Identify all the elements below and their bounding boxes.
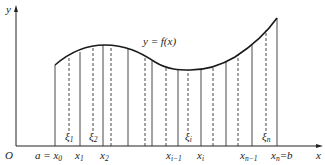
label-xi2: ξ2 bbox=[89, 130, 98, 144]
origin-label: O bbox=[5, 149, 13, 161]
partition-labels: a = x0 x1 x2 xi−1 xi xn−1 xn=b bbox=[35, 149, 293, 163]
label-xii: ξi bbox=[185, 130, 192, 144]
label-xi-1: xi−1 bbox=[165, 149, 182, 163]
label-xi1: ξ1 bbox=[65, 130, 73, 144]
y-axis-label: y bbox=[5, 3, 11, 15]
label-xn-1: xn−1 bbox=[239, 149, 257, 163]
curve-label: y = f(x) bbox=[142, 35, 176, 48]
label-xin: ξn bbox=[262, 130, 271, 144]
riemann-sum-diagram: y = f(x) y x O a = x0 x1 x2 xi−1 xi xn−1… bbox=[0, 0, 325, 165]
label-xi: xi bbox=[196, 149, 204, 163]
x-axis-label: x bbox=[315, 149, 321, 161]
label-a-x0: a = x0 bbox=[35, 149, 62, 163]
label-xn-b: xn=b bbox=[270, 149, 293, 163]
y-axis-arrow-icon bbox=[14, 5, 18, 12]
label-x1: x1 bbox=[74, 149, 84, 163]
label-x2: x2 bbox=[99, 149, 109, 163]
sample-lines bbox=[69, 30, 266, 146]
sample-labels: ξ1 ξ2 ξi ξn bbox=[65, 130, 271, 144]
x-axis-arrow-icon bbox=[316, 144, 323, 148]
